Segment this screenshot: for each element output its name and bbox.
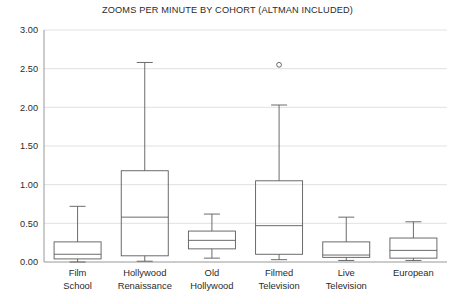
outlier-point: [277, 62, 282, 67]
x-axis-tick-label: Old: [205, 267, 220, 278]
box-iqr-rect: [121, 171, 168, 256]
y-axis-tick-label: 0.00: [20, 257, 38, 267]
gridlines-group: [44, 30, 447, 223]
x-axis-tick-label: Renaissance: [118, 280, 172, 291]
box-plot-item: [188, 214, 235, 258]
x-axis-tick-label: Television: [258, 280, 299, 291]
x-axis-tick-label: European: [393, 267, 434, 278]
plot-canvas: 0.000.501.001.502.002.503.00 FilmSchoolH…: [0, 0, 455, 304]
y-axis-tick-label: 0.50: [20, 219, 38, 229]
x-axis-tick-label: Hollywood: [190, 280, 233, 291]
x-axis-tick-label: Filmed: [265, 267, 293, 278]
x-axis-tick-label: Film: [69, 267, 87, 278]
x-axis-tick-label: Television: [326, 280, 367, 291]
box-plot-item: [54, 206, 101, 262]
box-plot-item: [256, 62, 303, 259]
box-series: [54, 62, 437, 262]
y-axis-tick-label: 2.00: [20, 103, 38, 113]
y-axis-tick-label: 3.00: [20, 25, 38, 35]
y-axis-labels: 0.000.501.001.502.002.503.00: [20, 25, 38, 267]
box-plot-item: [390, 222, 437, 261]
x-axis-tick-label: Hollywood: [123, 267, 166, 278]
box-plot-chart: ZOOMS PER MINUTE BY COHORT (ALTMAN INCLU…: [0, 0, 455, 304]
box-plot-item: [121, 62, 168, 261]
y-axis-tick-label: 1.00: [20, 180, 38, 190]
y-axis-tick-label: 2.50: [20, 64, 38, 74]
box-iqr-rect: [390, 238, 437, 258]
y-axis-tick-label: 1.50: [20, 141, 38, 151]
x-axis-tick-label: Live: [338, 267, 355, 278]
x-axis-labels: FilmSchoolHollywoodRenaissanceOldHollywo…: [63, 267, 434, 291]
box-iqr-rect: [54, 242, 101, 259]
box-iqr-rect: [256, 181, 303, 254]
x-axis-tick-label: School: [63, 280, 92, 291]
